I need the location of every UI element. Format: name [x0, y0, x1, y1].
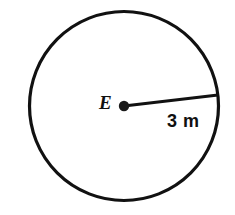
diagram-background	[0, 0, 235, 215]
circle-diagram-svg	[0, 0, 235, 215]
radius-measure-label: 3 m	[167, 112, 200, 130]
center-point-dot	[119, 101, 129, 111]
center-point-label: E	[99, 93, 112, 112]
circle-diagram-canvas: E 3 m	[0, 0, 235, 215]
